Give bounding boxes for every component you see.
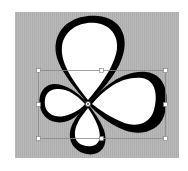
editor-stage: [0, 0, 188, 171]
pivot-point-icon[interactable]: [85, 101, 90, 106]
handle-middle-left[interactable]: [37, 103, 41, 107]
handle-middle-right[interactable]: [164, 103, 168, 107]
handle-top-left[interactable]: [37, 69, 41, 73]
handle-top-right[interactable]: [164, 69, 168, 73]
handle-bottom-left[interactable]: [37, 137, 41, 141]
handle-bottom-middle[interactable]: [100, 137, 104, 141]
clover-artwork[interactable]: [0, 0, 188, 171]
handle-bottom-right[interactable]: [164, 137, 168, 141]
handle-top-middle[interactable]: [100, 69, 104, 73]
